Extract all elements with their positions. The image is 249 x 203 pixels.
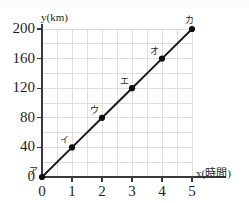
y-tick-label-40: 40	[0, 139, 35, 156]
data-point-label-ka: カ	[185, 13, 194, 26]
data-point-marker	[69, 144, 75, 150]
data-point-marker	[189, 26, 195, 32]
data-point-marker	[99, 115, 105, 121]
data-point-marker	[159, 56, 165, 62]
data-point-label-u: ウ	[90, 103, 99, 116]
y-axis-title: y(km)	[41, 11, 68, 23]
data-point-marker	[129, 85, 135, 91]
x-axis-title: x(時間)	[196, 164, 231, 180]
y-tick-label-160: 160	[0, 50, 35, 67]
data-point-label-o: オ	[150, 44, 159, 57]
y-tick-label-80: 80	[0, 109, 35, 126]
data-point-label-i: イ	[60, 133, 69, 146]
y-tick-label-120: 120	[0, 79, 35, 96]
y-tick-label-200: 200	[0, 20, 35, 37]
data-point-label-e: エ	[120, 74, 129, 87]
x-tick-label-2: 2	[98, 183, 106, 200]
x-tick-label-5: 5	[188, 183, 196, 200]
x-tick-label-3: 3	[128, 183, 136, 200]
x-tick-label-0: 0	[38, 183, 46, 200]
x-tick-label-4: 4	[158, 183, 166, 200]
data-point-label-a: ア	[29, 164, 38, 177]
chart-figure: y(km) x(時間) 0 40 80 120 160 200 0 1 2 3 …	[0, 0, 249, 203]
y-axis-ticks	[37, 29, 42, 147]
x-axis-ticks	[72, 177, 192, 182]
x-tick-label-1: 1	[68, 183, 76, 200]
data-point-marker	[39, 174, 45, 180]
